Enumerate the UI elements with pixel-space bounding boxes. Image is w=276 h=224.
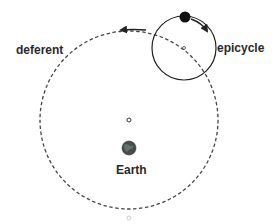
deferent-circle <box>40 31 218 209</box>
earth-label: Earth <box>116 164 147 176</box>
deferent-label: deferent <box>16 44 63 56</box>
epicycle-arrow-icon <box>191 19 207 31</box>
epicycle-circle <box>152 16 216 80</box>
epicycle-center-marker <box>183 47 186 50</box>
earth-icon <box>122 141 136 155</box>
ptolemaic-model-diagram <box>0 0 276 224</box>
deferent-arrow-icon <box>121 30 146 31</box>
deferent-center-marker <box>127 118 131 122</box>
bottom-marker <box>127 216 131 220</box>
planet-dot <box>180 12 191 23</box>
epicycle-label: epicycle <box>217 42 264 54</box>
